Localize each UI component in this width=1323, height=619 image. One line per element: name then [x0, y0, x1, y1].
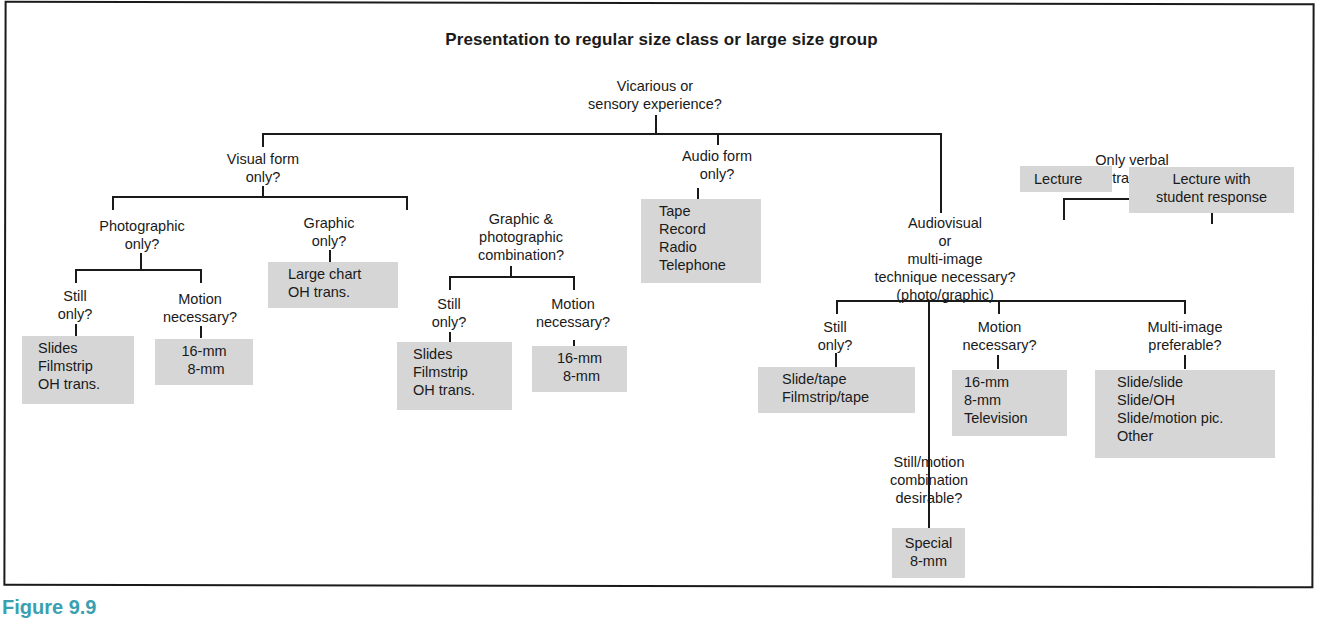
- connector: [1184, 300, 1186, 314]
- node-av-still-motion: Still/motion combination desirable?: [879, 453, 979, 507]
- node-vicarious: Vicarious or sensory experience?: [555, 77, 755, 113]
- connector: [75, 269, 77, 283]
- outcome-av-still-motion: Special 8-mm: [892, 528, 965, 578]
- connector: [262, 133, 942, 135]
- connector: [449, 276, 575, 278]
- connector: [262, 133, 264, 147]
- connector: [836, 300, 838, 314]
- connector: [406, 196, 408, 210]
- connector: [998, 300, 1000, 314]
- connector: [1184, 355, 1186, 369]
- node-gp-motion: Motion necessary?: [528, 295, 618, 331]
- node-graphic-photo: Graphic & photographic combination?: [456, 210, 586, 264]
- connector: [717, 133, 719, 145]
- node-photographic: Photographic only?: [82, 217, 202, 253]
- connector: [997, 355, 999, 369]
- node-visual-form: Visual form only?: [203, 150, 323, 186]
- connector: [75, 269, 202, 271]
- outcome-gp-still: Slides Filmstrip OH trans.: [397, 342, 512, 410]
- connector: [928, 508, 930, 528]
- connector: [940, 133, 942, 213]
- outcome-photo-still: Slides Filmstrip OH trans.: [22, 336, 134, 404]
- node-av-motion: Motion necessary?: [952, 318, 1047, 354]
- node-gp-still: Still only?: [419, 295, 479, 331]
- outcome-av-motion: 16-mm 8-mm Television: [952, 370, 1067, 436]
- connector: [75, 324, 77, 336]
- node-graphic: Graphic only?: [289, 214, 369, 250]
- connector: [200, 326, 202, 338]
- outcome-lecture-response: Lecture with student response: [1129, 167, 1294, 213]
- connector: [835, 353, 837, 367]
- connector: [112, 196, 114, 210]
- node-audiovisual: Audiovisual or multi-image technique nec…: [870, 214, 1020, 304]
- node-photo-still: Still only?: [45, 287, 105, 323]
- outcome-photo-motion: 16-mm 8-mm: [155, 339, 253, 385]
- outcome-graphic: Large chart OH trans.: [268, 262, 398, 308]
- node-photo-motion: Motion necessary?: [155, 290, 245, 326]
- outcome-lecture: Lecture: [1020, 166, 1112, 192]
- connector: [200, 269, 202, 283]
- node-audio: Audio form only?: [667, 147, 767, 183]
- connector: [112, 196, 408, 198]
- connector: [449, 332, 451, 342]
- outcome-av-multi: Slide/slide Slide/OH Slide/motion pic. O…: [1095, 370, 1275, 458]
- outcome-gp-motion: 16-mm 8-mm: [532, 346, 627, 392]
- connector: [1063, 198, 1065, 220]
- connector: [449, 276, 451, 290]
- connector: [655, 115, 657, 135]
- diagram-title: Presentation to regular size class or la…: [0, 30, 1323, 50]
- node-av-multi: Multi-image preferable?: [1130, 318, 1240, 354]
- connector: [573, 276, 575, 290]
- connector: [329, 250, 331, 262]
- node-av-still: Still only?: [805, 318, 865, 354]
- figure-caption: Figure 9.9: [2, 596, 96, 619]
- connector: [836, 300, 1186, 302]
- outcome-av-still: Slide/tape Filmstrip/tape: [758, 367, 915, 413]
- outcome-audio: Tape Record Radio Telephone: [641, 199, 761, 283]
